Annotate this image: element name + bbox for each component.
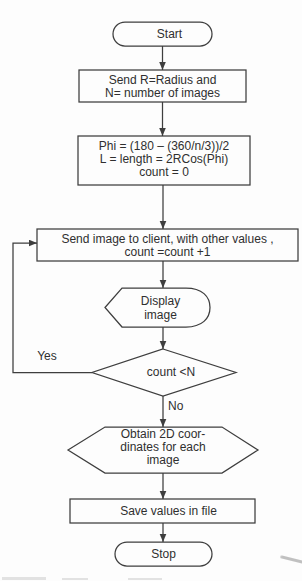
flowchart-figure: Start Send R=Radius and N= number of ima… [0,0,302,581]
save-label: Save values in file [70,499,255,523]
start-label: Start [113,22,212,46]
compute-label: Phi = (180 – (360/n/3))/2 L = length = 2… [78,140,250,179]
display-line-2: image [113,309,208,323]
send-params-line-2: N= number of images [79,87,246,100]
display-label: Display image [113,295,208,322]
no-branch-label: No [168,399,198,413]
compute-line-3: count = 0 [78,166,250,179]
obtain-coords-line-3: image [68,454,258,467]
send-params-label: Send R=Radius and N= number of images [79,74,246,100]
stop-label: Stop [115,542,212,566]
obtain-coords-label: Obtain 2D coor- dinates for each image [68,428,258,467]
send-image-line-2: count =count +1 [37,246,298,259]
yes-branch-label: Yes [27,349,67,363]
send-image-label: Send image to client, with other values … [37,233,298,259]
decision-label: count <N [96,366,236,379]
display-line-1: Display [113,295,208,309]
